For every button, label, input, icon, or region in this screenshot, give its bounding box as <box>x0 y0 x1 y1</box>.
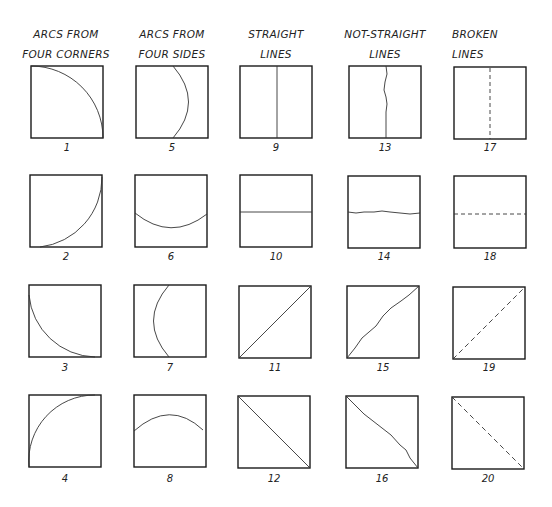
figure-number: 1 <box>31 142 103 153</box>
figure-number: 14 <box>348 251 420 262</box>
figure-number: 16 <box>346 473 418 484</box>
figure-1 <box>31 66 103 138</box>
line-drawing <box>348 176 420 248</box>
figure-7 <box>134 285 206 357</box>
figure-5 <box>136 66 208 138</box>
header-line1: STRAIGHT <box>221 24 331 44</box>
figure-number: 17 <box>454 142 526 153</box>
header-line2: FOUR SIDES <box>117 44 227 64</box>
header-line2: FOUR CORNERS <box>11 44 121 64</box>
line-drawing <box>238 396 310 468</box>
figure-18 <box>454 176 526 248</box>
figure-11 <box>239 286 311 358</box>
line-drawing <box>347 286 419 358</box>
figure-13 <box>349 66 421 138</box>
figure-number: 7 <box>134 362 206 373</box>
line-drawing <box>349 66 421 138</box>
figure-number: 4 <box>29 473 101 484</box>
arc-drawing <box>31 66 103 138</box>
line-drawing <box>346 396 418 468</box>
figure-6 <box>135 175 207 247</box>
figure-14 <box>348 176 420 248</box>
line-drawing <box>452 397 524 469</box>
figure-10 <box>240 175 312 247</box>
line-drawing <box>453 287 525 359</box>
figure-19 <box>453 287 525 359</box>
column-header-straight-lines: STRAIGHT LINES <box>221 24 331 64</box>
arc-drawing <box>134 395 206 467</box>
arc-drawing <box>136 66 208 138</box>
figure-number: 2 <box>30 251 102 262</box>
figure-2 <box>30 175 102 247</box>
line-drawing <box>239 286 311 358</box>
line-drawing <box>240 66 312 138</box>
figure-number: 18 <box>454 251 526 262</box>
header-line1: BROKEN <box>452 24 552 44</box>
column-header-not-straight-lines: NOT-STRAIGHT LINES <box>330 24 440 64</box>
figure-16 <box>346 396 418 468</box>
figure-number: 11 <box>239 362 311 373</box>
figure-number: 15 <box>347 362 419 373</box>
header-line1: ARCS FROM <box>11 24 121 44</box>
line-drawing <box>454 67 526 139</box>
figure-number: 9 <box>240 142 312 153</box>
figure-8 <box>134 395 206 467</box>
figure-number: 13 <box>349 142 421 153</box>
column-header-arcs-from-sides: ARCS FROM FOUR SIDES <box>117 24 227 64</box>
column-header-arcs-from-corners: ARCS FROM FOUR CORNERS <box>11 24 121 64</box>
figure-17 <box>454 67 526 139</box>
arc-drawing <box>135 175 207 247</box>
line-drawing <box>454 176 526 248</box>
header-line1: ARCS FROM <box>117 24 227 44</box>
header-line1: NOT-STRAIGHT <box>330 24 440 44</box>
arc-drawing <box>30 175 102 247</box>
header-line2: LINES <box>452 44 552 64</box>
figure-number: 10 <box>240 251 312 262</box>
figure-15 <box>347 286 419 358</box>
figure-number: 8 <box>134 473 206 484</box>
figure-number: 6 <box>135 251 207 262</box>
arc-drawing <box>134 285 206 357</box>
figure-3 <box>29 285 101 357</box>
header-line2: LINES <box>221 44 331 64</box>
figure-12 <box>238 396 310 468</box>
figure-number: 12 <box>238 473 310 484</box>
figure-9 <box>240 66 312 138</box>
line-drawing <box>240 175 312 247</box>
arc-drawing <box>29 285 101 357</box>
figure-number: 5 <box>136 142 208 153</box>
figure-number: 19 <box>453 362 525 373</box>
column-header-broken-lines: BROKEN LINES <box>430 24 552 64</box>
arc-drawing <box>29 395 101 467</box>
figure-20 <box>452 397 524 469</box>
header-line2: LINES <box>330 44 440 64</box>
figure-number: 3 <box>29 362 101 373</box>
figure-number: 20 <box>452 473 524 484</box>
figure-4 <box>29 395 101 467</box>
